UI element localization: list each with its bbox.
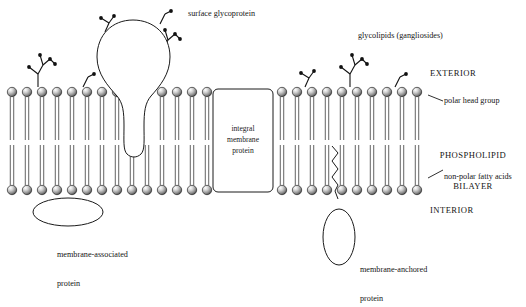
polar-head-group (7, 87, 16, 96)
polar-head-group (142, 185, 151, 194)
phospholipid (352, 145, 361, 195)
phospholipid (37, 87, 46, 140)
polar-head-group (172, 87, 181, 96)
phospholipid (67, 87, 76, 140)
polar-head-group (52, 87, 61, 96)
phospholipid (397, 145, 406, 195)
sugar-residue (350, 53, 354, 57)
phospholipid (277, 145, 286, 195)
label-membrane-anchored-line2: protein (360, 294, 427, 304)
glycan-bond (38, 65, 43, 74)
label-membrane-anchored-line1: membrane-anchored (360, 265, 427, 275)
phospholipid (382, 145, 391, 195)
polar-head-group (337, 185, 346, 194)
phospholipid (322, 145, 331, 195)
label-interior: INTERIOR (430, 205, 474, 215)
label-surface-glycoprotein: surface glycoprotein (188, 9, 255, 19)
phospholipid (67, 145, 76, 195)
phospholipid (367, 87, 376, 140)
label-phospholipid-bilayer: PHOSPHOLIPID BILAYER (424, 130, 522, 211)
polar-head-group (127, 185, 136, 194)
label-membrane-associated-line1: membrane-associated (57, 250, 128, 260)
polar-head-group (292, 185, 301, 194)
sugar-residue (404, 72, 408, 76)
polar-head-group (97, 87, 106, 96)
sugar-residue (53, 62, 57, 66)
phospholipid (382, 87, 391, 140)
polar-head-group (187, 87, 196, 96)
polar-head-group (367, 87, 376, 96)
polar-head-group (67, 87, 76, 96)
sugar-residue (27, 65, 31, 69)
phospholipid (157, 87, 166, 140)
phospholipid (112, 145, 121, 195)
phospholipid (202, 145, 211, 195)
phospholipid (82, 145, 91, 195)
label-integral-line1: integral (213, 123, 273, 134)
phospholipid (292, 145, 301, 195)
phospholipid (22, 145, 31, 195)
polar-head-group (367, 185, 376, 194)
polar-head-group (22, 87, 31, 96)
polar-head-group (157, 185, 166, 194)
phospholipid (82, 87, 91, 140)
polar-head-group (22, 185, 31, 194)
label-integral-line2: membrane (213, 134, 273, 145)
polar-head-group (322, 185, 331, 194)
sugar-residue (299, 71, 303, 75)
polar-head-group (187, 185, 196, 194)
sugar-residue (163, 28, 167, 32)
label-phospholipid-bilayer-line2: BILAYER (424, 181, 522, 191)
polar-head-group (292, 87, 301, 96)
phospholipid (187, 145, 196, 195)
phospholipid (352, 87, 361, 140)
glycan-branches (27, 9, 408, 87)
sugar-residue (112, 14, 116, 18)
polar-head-group (37, 185, 46, 194)
polar-head-group (172, 185, 181, 194)
label-phospholipid-bilayer-line1: PHOSPHOLIPID (424, 150, 522, 160)
polar-head-group (7, 185, 16, 194)
phospholipid (322, 87, 331, 140)
phospholipid (97, 145, 106, 195)
polar-head-group (97, 185, 106, 194)
polar-head-group (337, 87, 346, 96)
phospholipid (412, 145, 421, 195)
phospholipid (187, 87, 196, 140)
phospholipid (52, 145, 61, 195)
polar-head-group (412, 87, 421, 96)
label-membrane-anchored-protein: membrane-anchored protein (360, 246, 427, 307)
label-membrane-associated-protein: membrane-associated protein (57, 231, 128, 307)
glycan-bond (83, 77, 88, 87)
polar-head-group (37, 87, 46, 96)
phospholipid (97, 87, 106, 140)
phospholipid (22, 87, 31, 140)
label-glycolipids: glycolipids (gangliosides) (358, 31, 443, 41)
sugar-residue (38, 53, 42, 57)
phospholipid (277, 87, 286, 140)
phospholipid (172, 87, 181, 140)
polar-head-group (322, 87, 331, 96)
phospholipid (157, 145, 166, 195)
phospholipid (7, 87, 16, 140)
sugar-residue (99, 16, 103, 20)
polar-head-group (82, 87, 91, 96)
glycan-bond (350, 65, 355, 74)
membrane-anchored-protein-shape (323, 209, 355, 265)
phospholipid (397, 87, 406, 140)
sugar-residue (178, 37, 182, 41)
phospholipid (367, 145, 376, 195)
label-exterior: EXTERIOR (430, 68, 476, 78)
polar-head-group (277, 185, 286, 194)
polar-head-group (307, 185, 316, 194)
polar-head-group (202, 185, 211, 194)
label-integral-membrane-protein: integral membrane protein (213, 123, 273, 156)
polar-head-group (82, 185, 91, 194)
glycan-bond (395, 77, 400, 87)
phospholipid (37, 145, 46, 195)
membrane-associated-protein-shape (33, 198, 103, 226)
phospholipid (142, 145, 151, 195)
polar-head-group (202, 87, 211, 96)
polar-head-group (352, 87, 361, 96)
